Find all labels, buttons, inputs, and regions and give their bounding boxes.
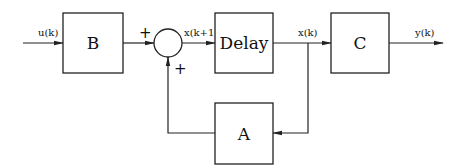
x-k-plus-1-label: x(k+1) [184, 27, 218, 38]
b-to-sum-wire: + [123, 24, 154, 43]
summing-junction [154, 29, 182, 57]
block-a: A [215, 103, 273, 164]
block-c: C [331, 13, 389, 73]
delay-to-c-wire: x(k) [273, 27, 331, 43]
x-k-label: x(k) [298, 27, 318, 38]
input-signal: u(k) [23, 27, 63, 43]
block-diagram: u(k) B + + x(k+1) Delay x(k) C y(k) [0, 0, 461, 168]
block-c-label: C [353, 33, 366, 53]
sum-bottom-sign: + [174, 60, 187, 78]
block-delay-label: Delay [220, 33, 269, 53]
input-label: u(k) [38, 27, 58, 38]
block-delay: Delay [215, 13, 273, 73]
feedback-to-a-wire [273, 43, 308, 133]
block-b: B [63, 13, 123, 73]
block-b-label: B [87, 33, 100, 53]
sum-to-delay-wire: x(k+1) [182, 27, 218, 43]
block-a-label: A [237, 124, 251, 144]
output-label: y(k) [414, 27, 435, 38]
sum-top-sign: + [139, 24, 152, 42]
output-signal: y(k) [389, 27, 443, 43]
